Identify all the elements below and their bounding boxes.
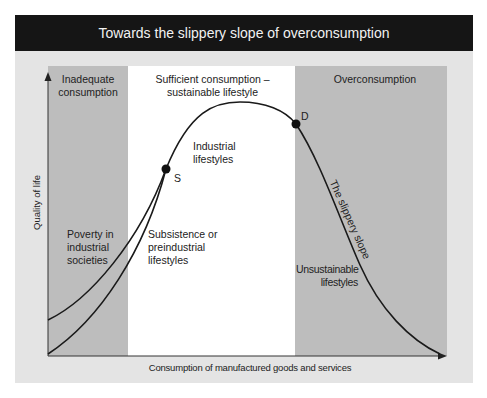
- zone-label-overconsumption-line1: Overconsumption: [320, 73, 430, 86]
- annotation-industrial: Industrial lifestyles: [193, 140, 236, 166]
- zone-label-sufficient: Sufficient consumption – sustainable lif…: [140, 73, 285, 99]
- y-axis-label: Quality of life: [30, 163, 43, 243]
- annotation-subsistence-line1: Subsistence or: [148, 228, 217, 241]
- annotation-subsistence: Subsistence or preindustrial lifestyles: [148, 228, 217, 267]
- annotation-poverty-line1: Poverty in: [67, 228, 114, 241]
- annotation-poverty-line2: industrial: [67, 241, 114, 254]
- x-axis-label: Consumption of manufactured goods and se…: [100, 361, 400, 374]
- diagram-canvas: [0, 0, 487, 398]
- zone-label-overconsumption: Overconsumption: [320, 73, 430, 86]
- zone-label-inadequate-line2: consumption: [56, 86, 120, 99]
- annotation-unsustainable-line2: lifestyles: [296, 276, 358, 289]
- point-s-marker: [162, 165, 171, 174]
- annotation-unsustainable-line1: Unsustainable: [296, 263, 358, 276]
- annotation-poverty-line3: societies: [67, 254, 114, 267]
- zone-overconsumption: [295, 66, 447, 356]
- zone-label-inadequate: Inadequate consumption: [56, 73, 120, 99]
- point-d-label: D: [301, 110, 309, 123]
- annotation-unsustainable: Unsustainable lifestyles: [296, 263, 358, 289]
- annotation-industrial-line1: Industrial: [193, 140, 236, 153]
- zone-label-sufficient-line2: sustainable lifestyle: [140, 86, 285, 99]
- zone-label-sufficient-line1: Sufficient consumption –: [140, 73, 285, 86]
- point-s-label: S: [174, 172, 181, 185]
- annotation-subsistence-line2: preindustrial: [148, 241, 217, 254]
- annotation-industrial-line2: lifestyles: [193, 153, 236, 166]
- annotation-poverty: Poverty in industrial societies: [67, 228, 114, 267]
- point-d-marker: [292, 120, 301, 129]
- annotation-subsistence-line3: lifestyles: [148, 254, 217, 267]
- zone-label-inadequate-line1: Inadequate: [56, 73, 120, 86]
